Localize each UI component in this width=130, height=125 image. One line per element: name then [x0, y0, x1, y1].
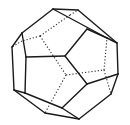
hidden-edge — [70, 10, 78, 15]
visible-edge — [12, 33, 22, 47]
hidden-edge — [104, 70, 111, 94]
hidden-edge — [22, 36, 40, 41]
hidden-edge — [66, 70, 104, 75]
polyhedron-figure — [0, 0, 130, 125]
visible-edge — [26, 56, 65, 57]
visible-edge — [87, 74, 118, 84]
hidden-edge — [40, 15, 70, 36]
visible-edge — [25, 93, 62, 108]
visible-edge — [25, 57, 26, 93]
visible-edge — [111, 74, 118, 94]
hidden-edge — [104, 38, 107, 70]
dodecahedron-wireframe — [0, 0, 130, 125]
visible-edge — [79, 94, 111, 119]
visible-edge — [12, 47, 14, 90]
visible-edge — [117, 43, 118, 74]
visible-edge — [22, 33, 26, 57]
visible-edge — [65, 29, 87, 56]
visible-edge — [65, 56, 87, 84]
visible-edge — [22, 9, 53, 33]
visible-edge — [14, 90, 45, 113]
visible-edge — [78, 10, 117, 43]
visible-edge — [87, 29, 107, 38]
visible-edge — [62, 84, 87, 108]
visible-edge — [53, 9, 78, 10]
